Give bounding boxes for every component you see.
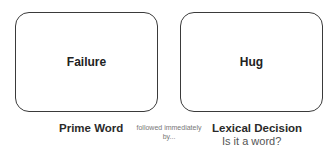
- prime-word-text: Failure: [67, 55, 106, 69]
- target-word-card: Hug: [180, 12, 323, 112]
- prime-word-label: Prime Word: [59, 122, 123, 134]
- lexical-decision-label: Lexical Decision: [212, 122, 302, 134]
- connector-line-2: by...: [128, 132, 210, 141]
- target-word-text: Hug: [240, 55, 263, 69]
- connector-line-1: followed immediately: [128, 123, 210, 132]
- connector-text: followed immediately by...: [128, 123, 210, 141]
- lexical-decision-question: Is it a word?: [222, 135, 281, 147]
- prime-word-card: Failure: [15, 12, 158, 112]
